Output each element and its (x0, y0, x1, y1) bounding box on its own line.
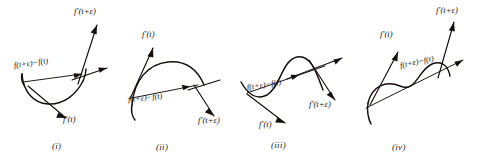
panel-ii: f'(t) f(t+ε)−f(t) f'(t+ε) (ii) (120, 0, 245, 167)
tangent-end-arrowhead (91, 25, 97, 35)
secant-ray (188, 80, 220, 90)
label-tangent-end-ii: f'(t+ε) (198, 116, 220, 125)
label-tangent-end-iv: f'(t+ε) (436, 6, 458, 15)
secant-ray-arrowhead (98, 68, 107, 73)
tangent-end-arrowhead (449, 22, 455, 32)
caption-panel-i: (i) (52, 141, 61, 151)
label-tangent-start-iii: f'(t) (259, 120, 272, 129)
panel-i: f'(t+ε) f(t+ε)−f(t) f'(t) (i) (0, 0, 125, 167)
secant-ray-arrowhead (333, 58, 342, 64)
panel-iv: f'(t) f'(t+ε) f(t+ε)−f(t) (iv) (358, 0, 483, 167)
panel-iv-drawing (358, 0, 483, 167)
label-tangent-end-iii: f'(t+ε) (309, 100, 331, 109)
label-tangent-end-i: f'(t+ε) (74, 7, 96, 16)
tangent-start-arrowhead (275, 117, 285, 123)
curve-tail-left (132, 105, 135, 120)
curve-tail-right (83, 69, 86, 81)
tangent-start-arrowhead (392, 52, 398, 61)
figure-canvas: f'(t+ε) f(t+ε)−f(t) f'(t) (i) (0, 0, 486, 167)
chord-arrowhead (454, 60, 463, 67)
caption-panel-ii: (ii) (156, 142, 168, 152)
tangent-start-arrowhead (147, 48, 153, 57)
label-tangent-start-iv: f'(t) (380, 30, 393, 39)
curve-s (368, 63, 450, 103)
panel-ii-drawing (120, 0, 245, 167)
panel-i-drawing (0, 0, 125, 167)
panel-iii: f(t+ε)−f(t) f'(t) f'(t+ε) (iii) (237, 0, 362, 167)
label-tangent-start-ii: f'(t) (142, 30, 155, 39)
tangent-vector-end (194, 85, 214, 116)
label-tangent-start-i: f'(t) (63, 115, 76, 124)
caption-panel-iii: (iii) (271, 140, 286, 150)
chord-line (23, 74, 82, 82)
caption-panel-iv: (iv) (392, 142, 406, 152)
